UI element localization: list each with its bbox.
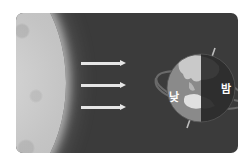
arrow-shaft: [81, 106, 121, 109]
diagram-card: 낮 밤: [16, 13, 238, 153]
earth: 낮 밤: [149, 38, 238, 138]
arrow-shaft: [81, 62, 121, 65]
arrow-head-icon: [120, 60, 126, 66]
sunlight-arrow-3: [81, 106, 126, 109]
arrow-head-icon: [120, 104, 126, 110]
day-label: 낮: [169, 92, 179, 103]
night-label: 밤: [221, 84, 231, 95]
arrow-shaft: [81, 84, 121, 87]
sunlight-arrow-2: [81, 84, 126, 87]
sunlight-arrow-1: [81, 62, 126, 65]
sun: [16, 13, 66, 153]
arrow-head-icon: [120, 82, 126, 88]
sun-surface-texture: [16, 13, 66, 153]
